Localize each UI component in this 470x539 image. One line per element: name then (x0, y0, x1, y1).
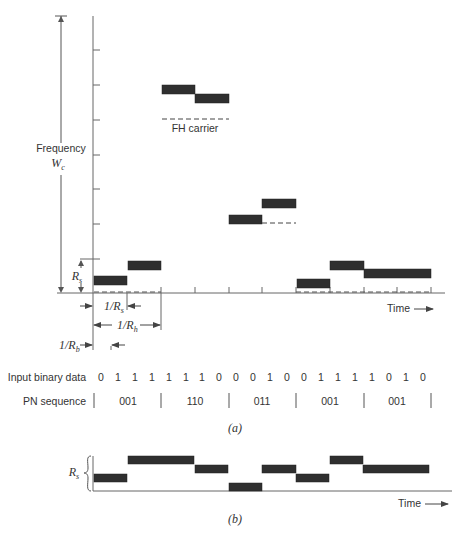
svg-text:0: 0 (216, 371, 222, 383)
svg-text:0: 0 (420, 371, 426, 383)
hop-bar (195, 94, 229, 103)
fh-diagram: Frequency Wc Rs (0, 0, 470, 539)
pn-sequence-row: PN sequence 001 110 011 001 001 (23, 393, 431, 408)
brace-icon (84, 456, 91, 491)
dehopped-bars (94, 456, 429, 491)
svg-text:1: 1 (149, 371, 155, 383)
dehopped-bar (195, 465, 228, 473)
pn-sequence-label: PN sequence (23, 395, 86, 407)
svg-text:0: 0 (386, 371, 392, 383)
svg-text:1: 1 (166, 371, 172, 383)
svg-text:1: 1 (369, 371, 375, 383)
svg-text:011: 011 (254, 395, 271, 407)
figure-b: Rs Time (68, 456, 452, 509)
svg-text:1: 1 (183, 371, 189, 383)
hop-bar (297, 279, 330, 288)
dehopped-bar (296, 474, 329, 482)
svg-text:0: 0 (301, 371, 307, 383)
hop-bar (364, 269, 431, 278)
frequency-label: Frequency (36, 142, 86, 154)
hop-bar (162, 85, 195, 94)
arrow-down-icon (58, 287, 64, 293)
svg-text:1: 1 (335, 371, 341, 383)
fh-carrier-label: FH carrier (172, 122, 219, 134)
svg-text:110: 110 (187, 395, 204, 407)
bit-period-label: 1/Rb (59, 338, 80, 354)
svg-text:1: 1 (199, 371, 205, 383)
hop-period-label: 1/Rh (117, 318, 138, 334)
caption-b: (b) (228, 512, 242, 526)
time-label-b: Time (398, 497, 421, 509)
svg-text:0: 0 (98, 371, 104, 383)
figure-a: Frequency Wc Rs (30, 16, 445, 354)
svg-text:1: 1 (318, 371, 324, 383)
svg-text:1: 1 (403, 371, 409, 383)
svg-text:1: 1 (267, 371, 273, 383)
svg-text:0: 0 (250, 371, 256, 383)
hop-bar (229, 215, 262, 224)
input-data-row: Input binary data 0 1 1 1 1 1 1 0 0 0 1 … (8, 371, 426, 383)
dehopped-bar (128, 456, 194, 464)
hop-bar (330, 261, 364, 270)
svg-text:0: 0 (233, 371, 239, 383)
svg-text:1: 1 (352, 371, 358, 383)
hop-bar (262, 199, 296, 208)
dehopped-bar (363, 465, 429, 473)
dehopped-bar (229, 483, 262, 491)
svg-text:1: 1 (115, 371, 121, 383)
caption-a: (a) (228, 421, 242, 435)
dehopped-bar (330, 456, 363, 464)
svg-text:001: 001 (321, 395, 339, 407)
svg-text:001: 001 (119, 395, 137, 407)
svg-text:001: 001 (388, 395, 406, 407)
hop-bar (128, 261, 161, 270)
svg-text:1: 1 (132, 371, 138, 383)
input-data-label: Input binary data (8, 371, 86, 383)
hop-bars (94, 85, 431, 288)
hop-bar (94, 276, 127, 285)
rs-label-b: Rs (68, 465, 79, 481)
dehopped-bar (262, 465, 296, 473)
svg-text:0: 0 (284, 371, 290, 383)
dehopped-bar (94, 474, 127, 482)
time-label-a: Time (387, 302, 410, 314)
arrow-up-icon (58, 16, 64, 22)
symbol-period-label: 1/Rs (104, 299, 124, 315)
